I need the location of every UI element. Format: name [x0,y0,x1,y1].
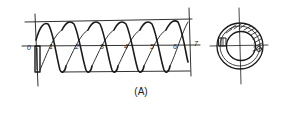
turn-label: 3 [100,43,104,50]
vertical-crosshair [239,8,241,84]
turn-label: 4 [124,43,128,50]
turn-label: 1 [49,43,53,50]
bottom-envelope-line [62,71,190,72]
turn-label: 2 [74,43,79,50]
right-end-line [189,8,191,76]
coil-front-strands [36,21,188,72]
turn-label: 5 [150,43,154,50]
top-envelope-line [25,19,192,22]
turn-label: 6 [173,43,177,50]
end-view [210,8,268,84]
turn-label: 7 [194,40,199,47]
turn-label: 0 [27,44,31,51]
hatching [226,24,262,51]
figure-caption: (A) [0,86,282,97]
